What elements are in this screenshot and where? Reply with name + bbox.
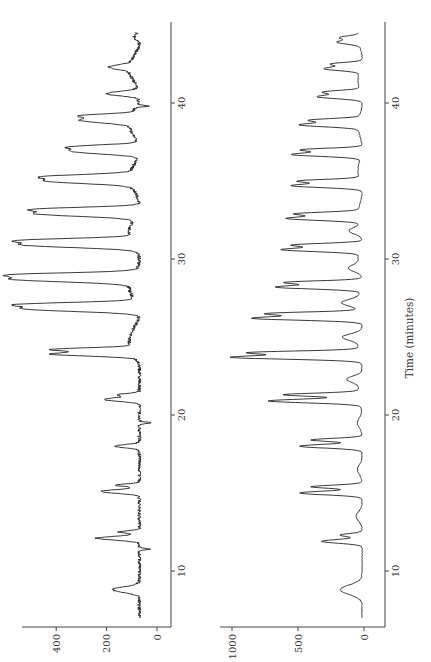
time-tick-label: 40 bbox=[176, 97, 187, 110]
intensity-tick-label: 0 bbox=[359, 634, 370, 640]
time-tick-label: 30 bbox=[176, 253, 187, 266]
top-chromatogram-trace bbox=[3, 33, 151, 618]
time-tick-label: 10 bbox=[176, 565, 187, 578]
intensity-tick-label: 0 bbox=[152, 634, 163, 640]
intensity-tick-label: 400 bbox=[51, 634, 62, 653]
time-tick-label: 10 bbox=[390, 565, 401, 578]
time-tick-label: 40 bbox=[390, 97, 401, 110]
intensity-tick-label: 500 bbox=[293, 634, 304, 653]
bottom-intensity-ticks: 05001000 bbox=[227, 627, 370, 659]
time-axis-title: Time (minutes) bbox=[403, 298, 415, 379]
intensity-tick-label: 200 bbox=[101, 634, 112, 653]
chromatogram-figure: 10203040 0200400 10203040 05001000 Time … bbox=[0, 0, 431, 662]
top-time-ticks: 10203040 bbox=[171, 97, 187, 578]
time-tick-label: 20 bbox=[390, 409, 401, 422]
time-tick-label: 20 bbox=[176, 409, 187, 422]
top-intensity-ticks: 0200400 bbox=[51, 627, 163, 653]
time-tick-label: 30 bbox=[390, 253, 401, 266]
bottom-panel: 10203040 05001000 bbox=[220, 22, 401, 659]
top-panel: 10203040 0200400 bbox=[3, 22, 187, 653]
bottom-chromatogram-trace bbox=[230, 33, 362, 618]
intensity-tick-label: 1000 bbox=[227, 634, 238, 659]
bottom-time-ticks: 10203040 bbox=[385, 97, 401, 578]
